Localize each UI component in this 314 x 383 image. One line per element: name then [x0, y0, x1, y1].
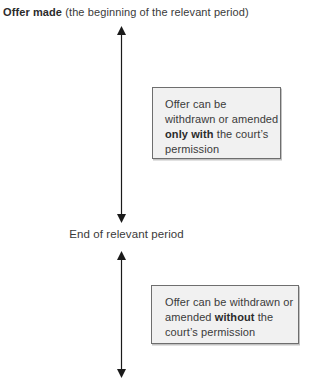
after-period-note-box: Offer can be withdrawn oramended without… [151, 285, 299, 344]
during-period-note-box: Offer can bewithdrawn or amendedonly wit… [152, 87, 281, 159]
arrow-down-head-icon [117, 369, 126, 378]
arrow-up-head-icon [117, 251, 126, 260]
arrow-up-head-icon [117, 26, 126, 35]
after-period-arrow [117, 251, 126, 378]
offer-timeline-diagram: Offer made (the beginning of the relevan… [0, 0, 314, 383]
arrow-down-head-icon [117, 214, 126, 223]
relevant-period-arrow [117, 26, 126, 223]
end-of-relevant-period-label: End of relevant period [46, 227, 207, 241]
